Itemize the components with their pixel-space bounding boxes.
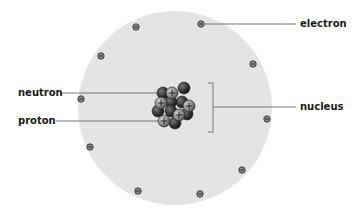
electron <box>239 167 245 173</box>
electron <box>135 188 141 194</box>
proton-label: proton <box>18 115 56 127</box>
electron <box>264 116 270 122</box>
electron <box>87 144 93 150</box>
electron <box>133 24 139 30</box>
neutron <box>178 82 190 94</box>
electron <box>250 61 256 67</box>
proton <box>166 87 178 99</box>
proton <box>155 97 167 109</box>
electron <box>198 21 204 27</box>
neutron-label: neutron <box>18 87 63 99</box>
electron <box>98 53 104 59</box>
electron <box>197 191 203 197</box>
proton <box>158 115 170 127</box>
nucleus-label: nucleus <box>300 101 343 113</box>
proton <box>173 109 185 121</box>
electron <box>78 96 84 102</box>
electron-label: electron <box>300 18 347 30</box>
proton <box>183 100 195 112</box>
